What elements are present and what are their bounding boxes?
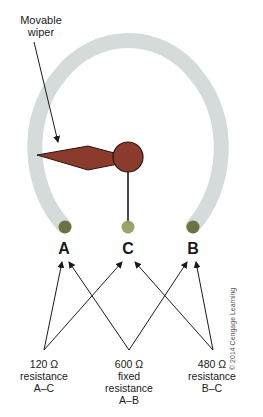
- potentiometer-diagram: [0, 0, 263, 417]
- resistance-text: fixed: [94, 370, 164, 382]
- resistance-terminals: A–B: [94, 394, 164, 406]
- resistance-label-bc: 480 Ω resistance B–C: [177, 358, 247, 394]
- wiper-hub: [113, 142, 143, 172]
- resistance-value: 600 Ω: [94, 358, 164, 370]
- terminal-c: [122, 221, 135, 234]
- movable-wiper-callout: Movable wiper: [6, 14, 76, 38]
- arrows: [44, 262, 213, 350]
- terminal-label-a: A: [54, 240, 74, 258]
- copyright-notice: © 2014 Cengage Learning: [229, 288, 236, 370]
- resistance-text: resistance: [177, 370, 247, 382]
- resistance-terminals: B–C: [177, 382, 247, 394]
- resistance-text: resistance: [9, 370, 79, 382]
- resistance-label-ab: 600 Ω fixed resistance A–B: [94, 358, 164, 406]
- resistance-label-ac: 120 Ω resistance A–C: [9, 358, 79, 394]
- terminal-label-b: B: [183, 240, 203, 258]
- resistance-text: resistance: [94, 382, 164, 394]
- wiper-pointer: [37, 146, 118, 170]
- resistance-value: 480 Ω: [177, 358, 247, 370]
- resistance-terminals: A–C: [9, 382, 79, 394]
- terminal-b: [187, 221, 200, 234]
- resistance-value: 120 Ω: [9, 358, 79, 370]
- callout-line2: wiper: [6, 26, 76, 38]
- callout-line1: Movable: [6, 14, 76, 26]
- terminal-label-c: C: [118, 240, 138, 258]
- terminal-a: [59, 221, 72, 234]
